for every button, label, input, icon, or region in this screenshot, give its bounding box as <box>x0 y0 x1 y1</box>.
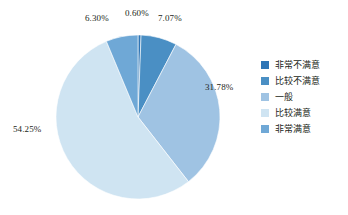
legend-item-3[interactable]: 比较满意 <box>261 105 345 121</box>
legend-swatch-icon-0 <box>261 61 269 69</box>
legend-swatch-icon-3 <box>261 109 269 117</box>
chart-legend: 非常不满意 比较不满意 一般 比较满意 非常满意 <box>261 57 345 137</box>
legend-swatch-icon-4 <box>261 125 269 133</box>
legend-item-0[interactable]: 非常不满意 <box>261 57 345 73</box>
legend-item-4[interactable]: 非常满意 <box>261 121 345 137</box>
legend-label-3: 比较满意 <box>275 109 311 118</box>
slice-label-1: 7.07% <box>158 13 182 23</box>
legend-item-2[interactable]: 一般 <box>261 89 345 105</box>
pie-chart: 0.60% 7.07% 31.78% 54.25% 6.30% 非常不满意 比较… <box>0 0 348 215</box>
slice-label-0: 0.60% <box>125 8 149 18</box>
pie-svg <box>56 35 220 199</box>
slice-label-3: 54.25% <box>13 124 41 134</box>
pie-slice-group <box>56 35 220 199</box>
slice-label-4: 6.30% <box>85 13 109 23</box>
legend-label-0: 非常不满意 <box>275 61 320 70</box>
slice-label-2: 31.78% <box>205 82 233 92</box>
legend-label-1: 比较不满意 <box>275 77 320 86</box>
pie-graphic <box>56 35 220 199</box>
legend-swatch-icon-2 <box>261 93 269 101</box>
legend-label-2: 一般 <box>275 93 293 102</box>
legend-swatch-icon-1 <box>261 77 269 85</box>
legend-label-4: 非常满意 <box>275 125 311 134</box>
legend-item-1[interactable]: 比较不满意 <box>261 73 345 89</box>
